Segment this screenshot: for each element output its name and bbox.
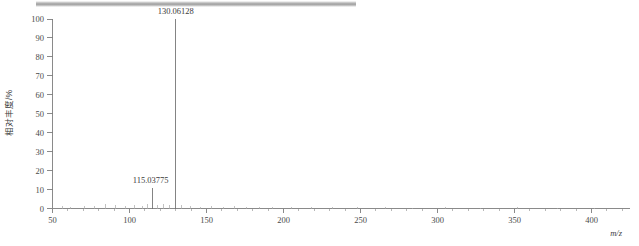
y-tick-label-40: 40: [36, 128, 45, 138]
peak-label-115: 115.03775: [133, 175, 169, 185]
x-tick-label-400: 400: [585, 215, 598, 225]
x-tick-label-300: 300: [431, 215, 444, 225]
y-axis-ticks: 0102030405060708090100: [31, 14, 52, 214]
y-tick-label-30: 30: [36, 147, 45, 157]
y-tick-label-80: 80: [36, 52, 45, 62]
y-tick-label-100: 100: [31, 14, 44, 24]
mass-spectrum-plot: 0102030405060708090100 50100150200250300…: [0, 0, 639, 246]
x-tick-label-250: 250: [354, 215, 367, 225]
y-tick-label-70: 70: [36, 71, 45, 81]
x-tick-label-150: 150: [200, 215, 213, 225]
y-tick-label-20: 20: [36, 166, 45, 176]
y-tick-label-10: 10: [36, 185, 45, 195]
x-tick-label-350: 350: [508, 215, 521, 225]
x-axis-ticks: 50100150200250300350400: [48, 209, 622, 225]
y-tick-label-0: 0: [40, 204, 44, 214]
x-axis-title: m/z: [610, 228, 623, 238]
y-tick-label-60: 60: [36, 90, 45, 100]
peak-annotations: 130.06128 115.03775: [133, 6, 194, 185]
x-tick-label-50: 50: [48, 215, 57, 225]
mass-spectrum-figure: 0102030405060708090100 50100150200250300…: [0, 0, 639, 246]
x-tick-label-100: 100: [123, 215, 136, 225]
x-tick-label-200: 200: [277, 215, 290, 225]
peak-label-130: 130.06128: [158, 6, 194, 16]
y-axis-title: 相对丰度/%: [4, 90, 14, 136]
y-tick-label-50: 50: [36, 109, 45, 119]
y-tick-label-90: 90: [36, 33, 45, 43]
